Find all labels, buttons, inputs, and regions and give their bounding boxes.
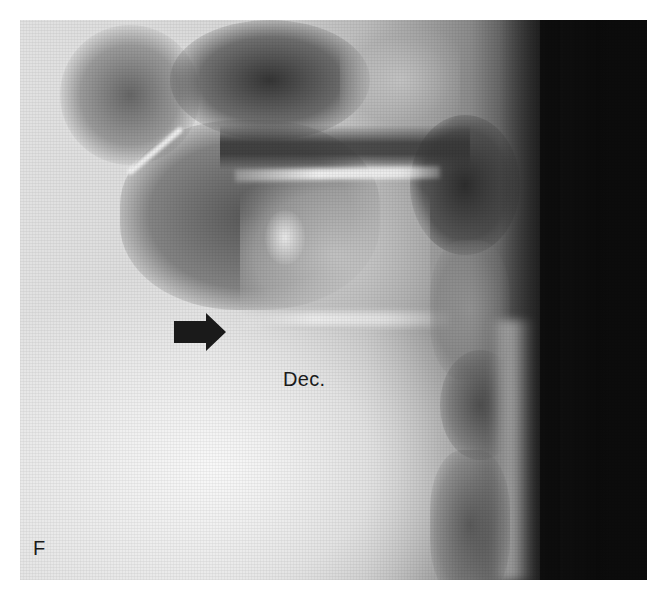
panel-label: F [33,537,45,560]
annotation-label: Dec. [283,368,325,391]
film-grain [20,20,647,580]
right-arrow-icon [174,313,226,351]
xray-image [20,20,647,580]
